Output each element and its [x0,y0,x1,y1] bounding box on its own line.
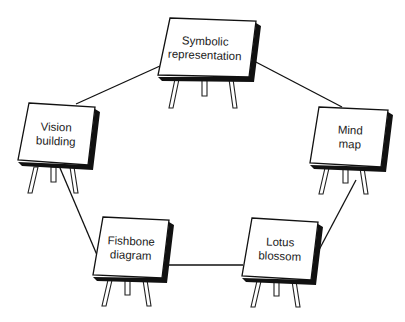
easel-leg-icon [70,167,78,193]
easel-symbolic [158,18,261,108]
node-label-mind-map: Mindmap [337,123,363,152]
easel-leg-icon [251,281,261,307]
easel-leg-icon [28,167,38,193]
easel-leg-icon [102,280,112,306]
connector-fishbone-vision [60,168,97,255]
node-label-lotus-blossom: Lotusblossom [258,234,302,263]
easel-leg-icon [202,79,207,96]
node-label-symbolic: Symbolicrepresentation [168,33,242,64]
easel-leg-icon [169,79,179,108]
node-label-vision-building: Visionbuilding [36,119,77,148]
connector-symbolic-mind [252,60,342,107]
easel-leg-icon [319,168,329,194]
easel-leg-icon [360,168,368,194]
node-label-fishbone: Fishbonediagram [107,233,155,263]
easel-leg-icon [229,79,237,108]
easel-leg-icon [292,281,300,307]
connector-vision-symbolic [76,66,160,104]
easel-leg-icon [51,167,56,182]
easel-leg-icon [143,280,151,306]
easel-leg-icon [125,280,130,295]
